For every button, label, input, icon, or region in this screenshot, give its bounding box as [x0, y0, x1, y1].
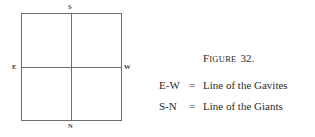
legend-row: E-W = Line of the Gavites [159, 79, 315, 91]
legend-row: S-N = Line of the Giants [159, 100, 315, 112]
diagram-horizontal-axis-line [21, 67, 122, 68]
cardinal-label-north: N [68, 123, 73, 130]
legend-value: Line of the Giants [203, 100, 283, 112]
legend-equals-sign: = [189, 79, 203, 91]
legend-key: E-W [159, 79, 189, 91]
figure-page: S N E W FIGURE32. E-W = Line of the Gavi… [0, 0, 315, 137]
compass-square-diagram: S N E W [0, 0, 150, 137]
figure-caption: FIGURE32. [203, 52, 254, 64]
legend-equals-sign: = [189, 100, 203, 112]
cardinal-label-west: W [124, 64, 131, 71]
cardinal-label-south: S [68, 4, 72, 11]
legend-key: S-N [159, 100, 189, 112]
legend-value: Line of the Gavites [203, 79, 288, 91]
figure-caption-smallcaps: IGURE [209, 54, 236, 64]
caption-block: FIGURE32. E-W = Line of the Gavites S-N … [150, 0, 315, 137]
cardinal-label-east: E [12, 64, 17, 71]
figure-number: 32. [241, 52, 255, 64]
